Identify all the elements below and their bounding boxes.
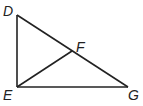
label-E: E: [3, 87, 13, 103]
triangle-diagram: D E G F: [0, 0, 143, 106]
label-F: F: [76, 39, 86, 55]
label-G: G: [128, 87, 139, 103]
segment-EF: [17, 51, 72, 87]
label-D: D: [3, 3, 13, 19]
